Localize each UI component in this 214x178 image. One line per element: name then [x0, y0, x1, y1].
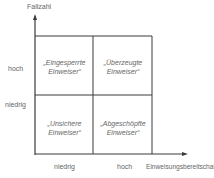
quadrant-bottom-left-line2: Einweiser“ [36, 128, 93, 137]
quadrant-bottom-left-line1: „Unsichere [36, 119, 93, 128]
y-axis-arrow-icon [33, 14, 37, 20]
quadrant-top-left: „Eingesperrte Einweiser“ [36, 58, 93, 76]
quadrant-top-right-line1: „Überzeugte [94, 58, 152, 67]
y-axis-label: Fallzahl [27, 3, 51, 11]
x-tick-niedrig: niedrig [54, 163, 75, 171]
x-tick-hoch: hoch [117, 163, 132, 171]
quadrant-top-left-line1: „Eingesperrte [36, 58, 93, 67]
quadrant-bottom-right: „Abgeschöpfte Einweiser“ [94, 119, 152, 137]
x-axis-arrow-icon [182, 152, 188, 156]
quadrant-bottom-right-line1: „Abgeschöpfte [94, 119, 152, 128]
quadrant-top-right-line2: Einweiser“ [94, 67, 152, 76]
matrix-diagram [0, 0, 214, 178]
quadrant-bottom-right-line2: Einweiser“ [94, 128, 152, 137]
y-tick-niedrig: niedrig [5, 101, 26, 109]
quadrant-bottom-left: „Unsichere Einweiser“ [36, 119, 93, 137]
x-axis-label: Einweisungsbereitschaft [146, 163, 214, 171]
quadrant-top-left-line2: Einweiser“ [36, 67, 93, 76]
y-tick-hoch: hoch [8, 65, 23, 73]
quadrant-top-right: „Überzeugte Einweiser“ [94, 58, 152, 76]
